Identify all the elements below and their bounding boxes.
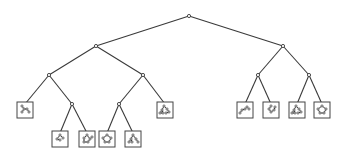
leaf-structure-box: [125, 131, 141, 147]
tree-edge: [283, 46, 309, 75]
tree-edge: [258, 46, 283, 75]
tree-edge: [258, 75, 271, 104]
tree-edge: [297, 75, 309, 104]
tree-edge: [189, 16, 283, 46]
leaf-box-frame: [289, 102, 305, 118]
tree-edge: [72, 104, 87, 133]
tree-edge: [119, 75, 143, 104]
tree-node: [117, 102, 120, 105]
tree-edge: [119, 104, 133, 133]
leaf-box-frame: [79, 131, 95, 147]
tree-edge: [49, 46, 96, 75]
tree-nodes: [17, 14, 330, 147]
tree-node: [47, 73, 50, 76]
leaf-structure-box: [289, 102, 305, 118]
tree-edge: [143, 75, 165, 104]
tree-edge: [245, 75, 258, 104]
leaf-structure-box: [237, 102, 253, 118]
tree-edge: [60, 104, 72, 133]
tree-edge: [96, 46, 143, 75]
tree-node: [187, 14, 190, 17]
tree-node: [256, 73, 259, 76]
tree-node: [307, 73, 310, 76]
leaf-box-frame: [314, 102, 330, 118]
leaf-structure-box: [263, 102, 279, 118]
tree-diagram-svg: [0, 0, 347, 158]
leaf-structure-box: [17, 102, 33, 118]
leaf-structure-box: [79, 131, 95, 147]
leaf-box-frame: [125, 131, 141, 147]
tree-edge: [25, 75, 49, 104]
leaf-structure-box: [157, 102, 173, 118]
leaf-box-frame: [157, 102, 173, 118]
tree-node: [141, 73, 144, 76]
leaf-box-frame: [99, 131, 115, 147]
tree-edge: [107, 104, 119, 133]
leaf-structure-box: [314, 102, 330, 118]
tree-edge: [309, 75, 322, 104]
leaf-structure-box: [52, 131, 68, 147]
tree-node: [94, 44, 97, 47]
tree-diagram: [0, 0, 347, 158]
tree-edge: [49, 75, 72, 104]
leaf-box-frame: [263, 102, 279, 118]
tree-edge: [96, 16, 189, 46]
leaf-structure-box: [99, 131, 115, 147]
tree-node: [70, 102, 73, 105]
tree-node: [281, 44, 284, 47]
